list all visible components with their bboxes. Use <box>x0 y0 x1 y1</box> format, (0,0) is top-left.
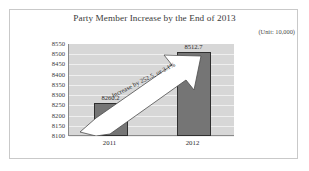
bar-value-label-2011: 8260.2 <box>101 94 119 101</box>
y-axis-tick: 8350 <box>39 82 65 89</box>
chart-canvas: 8550850084508400835083008250820081508100… <box>0 0 309 171</box>
y-axis-tick: 8500 <box>39 51 65 58</box>
x-axis-tick-2012: 2012 <box>186 139 200 146</box>
plot-area: 8260.28512.7 <box>68 44 234 136</box>
gridline <box>69 136 234 137</box>
y-axis-tick: 8400 <box>39 71 65 78</box>
bar-2011 <box>94 103 128 136</box>
y-axis-tick: 8150 <box>39 122 65 129</box>
y-axis-tick: 8450 <box>39 61 65 68</box>
y-axis-tick: 8100 <box>39 133 65 140</box>
y-axis-tick-labels: 8550850084508400835083008250820081508100 <box>38 44 65 136</box>
x-axis-tick-labels: 20112012 <box>68 139 234 151</box>
x-axis-tick-2011: 2011 <box>103 139 116 146</box>
y-axis-tick: 8550 <box>39 41 65 48</box>
bar-value-label-2012: 8512.7 <box>184 43 202 50</box>
bar-2012 <box>177 52 211 136</box>
y-axis-tick: 8300 <box>39 92 65 99</box>
y-axis-tick: 8200 <box>39 112 65 119</box>
y-axis-tick: 8250 <box>39 102 65 109</box>
